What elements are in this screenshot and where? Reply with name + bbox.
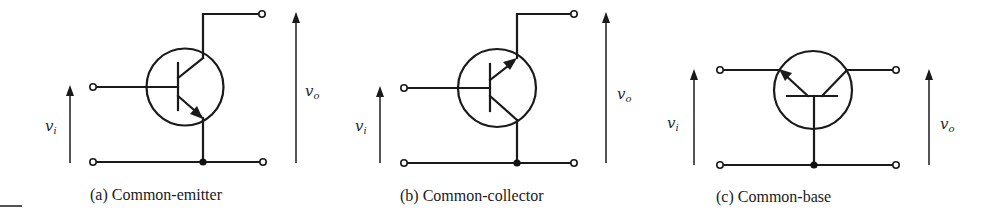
- panel-common-emitter: vi vo (a) Common-emitter: [45, 11, 320, 204]
- arrowhead-icon: [66, 85, 74, 96]
- arrowhead-icon: [292, 12, 300, 23]
- output-terminal-top: [893, 67, 899, 73]
- caption-common-emitter: (a) Common-emitter: [90, 186, 223, 204]
- arrowhead-icon: [602, 12, 610, 23]
- input-voltage-label: vi: [45, 117, 57, 136]
- caption-common-collector: (b) Common-collector: [400, 187, 544, 205]
- output-voltage-arrow: [292, 12, 300, 163]
- emitter-output-wire: [517, 14, 571, 58]
- junction-dot: [810, 161, 817, 168]
- input-terminal-bottom: [717, 162, 723, 168]
- input-terminal-top: [717, 67, 723, 73]
- arrowhead-icon: [376, 86, 384, 97]
- output-voltage-arrow: [925, 69, 933, 165]
- collector-lead: [822, 70, 847, 96]
- output-terminal-top: [259, 11, 265, 17]
- pnp-transistor-symbol: [774, 51, 852, 165]
- collector-output-wire: [203, 14, 259, 58]
- input-terminal-top: [90, 84, 96, 90]
- input-voltage-arrow: [66, 85, 74, 163]
- panel-common-base: vi vo (c) Common-base: [667, 51, 955, 206]
- input-voltage-label: vi: [355, 117, 367, 136]
- output-voltage-label: vo: [305, 82, 320, 101]
- caption-common-base: (c) Common-base: [716, 188, 831, 206]
- output-voltage-label: vo: [617, 85, 632, 104]
- junction-dot: [199, 158, 206, 165]
- output-terminal-bottom: [260, 159, 266, 165]
- collector-lead: [490, 96, 517, 120]
- output-terminal-top: [571, 11, 577, 17]
- collector-lead: [178, 58, 203, 78]
- input-voltage-label: vi: [667, 114, 679, 133]
- input-terminal-bottom: [90, 159, 96, 165]
- output-voltage-arrow: [602, 12, 610, 163]
- output-terminal-bottom: [571, 160, 577, 166]
- junction-dot: [513, 159, 520, 166]
- arrowhead-icon: [925, 69, 933, 80]
- arrowhead-icon: [690, 69, 698, 80]
- panel-common-collector: vi vo (b) Common-collector: [355, 11, 632, 205]
- input-terminal-top: [401, 85, 407, 91]
- input-voltage-arrow: [690, 69, 698, 165]
- input-terminal-bottom: [401, 160, 407, 166]
- input-voltage-arrow: [376, 86, 384, 163]
- output-terminal-bottom: [893, 162, 899, 168]
- transistor-configurations-diagram: vi vo (a) Common-emitter: [0, 0, 990, 224]
- output-voltage-label: vo: [940, 115, 955, 134]
